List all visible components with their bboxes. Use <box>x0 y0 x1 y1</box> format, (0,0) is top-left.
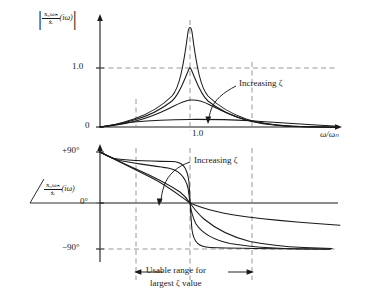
abs-bar-right: | <box>73 7 77 29</box>
magnitude-curve-zeta-0-40 <box>100 100 338 127</box>
annotation-increasing-zeta-phase: Increasing ζ <box>194 156 237 165</box>
phase-curve-zeta-0-10 <box>100 152 330 249</box>
phase-numerator: x₀ωₙ <box>44 182 62 189</box>
phase-argument: (iω) <box>62 184 75 193</box>
phase-ytick-0: 0° <box>80 197 88 206</box>
annotation-increasing-zeta-magnitude: Increasing ζ <box>239 79 282 88</box>
plot-canvas <box>0 0 365 307</box>
usable-range-caption-line1: Usable range for <box>146 266 206 275</box>
phase-ytick-plus-90: +90° <box>62 146 80 155</box>
phase-denominator: ẋᵢ <box>44 189 62 197</box>
magnitude-ytick-0: 0 <box>85 121 90 130</box>
magnitude-gridlines <box>100 20 338 131</box>
phase-curve-zeta-0-40 <box>100 152 332 248</box>
magnitude-ytick-1-0: 1.0 <box>72 62 83 71</box>
xaxis-tick-1-0: 1.0 <box>192 129 203 138</box>
magnitude-numerator: x₀ωₙ <box>42 11 60 18</box>
magnitude-axis-label: |x₀ωₙẋᵢ(iω)| <box>38 8 77 28</box>
phase-fraction: x₀ωₙẋᵢ <box>44 182 62 197</box>
magnitude-denominator: ẋᵢ <box>42 18 60 26</box>
phase-axis-label: x₀ωₙẋᵢ(iω) <box>44 180 75 197</box>
magnitude-axes <box>96 14 342 130</box>
magnitude-argument: (iω) <box>60 13 73 22</box>
phase-gridlines <box>100 148 338 280</box>
magnitude-fraction: x₀ωₙẋᵢ <box>42 11 60 26</box>
bode-plot-figure: |x₀ωₙẋᵢ(iω)| x₀ωₙẋᵢ(iω) 1.0 0 1.0 ω/ωₙ +… <box>0 0 365 307</box>
phase-curve-zeta-0-20 <box>100 152 330 249</box>
phase-ytick-minus-90: −90° <box>62 243 80 252</box>
usable-range-caption-line2: largest ζ value <box>150 279 202 288</box>
xaxis-label: ω/ωₙ <box>320 130 339 139</box>
